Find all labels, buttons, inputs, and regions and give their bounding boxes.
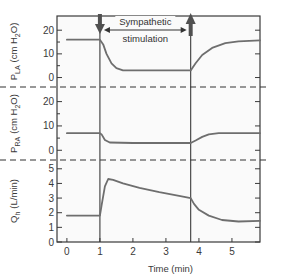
ylabel-symbol: Q: [8, 216, 19, 223]
x-tick-label: 3: [163, 246, 169, 257]
x-tick-label: 0: [64, 246, 70, 257]
y-tick-label-qh: 3: [48, 193, 54, 204]
y-tick-label-qh: 0: [48, 237, 54, 248]
y-axis-label-pra: PRA(cm H2O): [8, 94, 21, 153]
chart-figure: 01020PLA(cm H2O)01020PRA(cm H2O)012345Qh…: [0, 0, 282, 277]
ylabel-subscript: LA: [14, 65, 21, 74]
y-tick-label-pla: 0: [48, 72, 54, 83]
x-tick-label: 4: [196, 246, 202, 257]
x-tick-label: 1: [97, 246, 103, 257]
y-tick-label-qh: 1: [48, 222, 54, 233]
y-tick-label-pla: 20: [43, 25, 55, 36]
ylabel-subscript: RA: [14, 137, 21, 147]
y-tick-label-qh: 2: [48, 207, 54, 218]
ylabel-unit: (cm H: [8, 37, 19, 62]
x-tick-label: 2: [130, 246, 136, 257]
annotation-line-1: Sympathetic: [119, 16, 172, 27]
y-tick-label-pla: 10: [43, 48, 55, 59]
ylabel-unit-end: O): [8, 23, 19, 34]
annotation-line-2: stimulation: [123, 33, 168, 44]
y-axis-label-qh: Qh(L/min): [8, 179, 21, 223]
ylabel-unit-end: O): [8, 94, 19, 105]
plot-frame: [57, 16, 260, 242]
y-tick-label-pra: 20: [43, 96, 55, 107]
ylabel-subscript: h: [14, 212, 21, 216]
x-axis-label: Time (min): [148, 263, 193, 274]
y-axis-label-pla: PLA(cm H2O): [8, 23, 21, 81]
ylabel-unit: (cm H: [8, 108, 19, 133]
y-tick-label-pra: 0: [48, 145, 54, 156]
ylabel-unit: (L/min): [8, 179, 19, 209]
y-tick-label-pra: 10: [43, 120, 55, 131]
up-arrow-shaft: [189, 22, 193, 36]
x-tick-label: 5: [229, 246, 235, 257]
y-tick-label-qh: 4: [48, 178, 54, 189]
plot-frame-rect: [57, 16, 260, 242]
y-tick-label-qh: 5: [48, 163, 54, 174]
